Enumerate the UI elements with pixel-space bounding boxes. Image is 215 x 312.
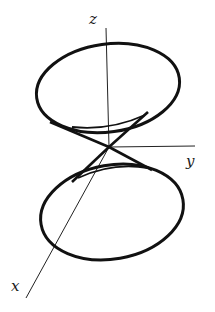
z-axis <box>106 28 109 147</box>
double-cone-diagram: z y x <box>0 0 215 312</box>
y-axis <box>109 146 195 147</box>
x-axis-label: x <box>11 277 20 295</box>
z-axis-label: z <box>88 10 97 28</box>
y-axis-label: y <box>185 152 195 170</box>
lower-nappe-rim <box>33 153 191 271</box>
upper-left-generator <box>50 122 109 147</box>
x-axis <box>26 147 109 298</box>
upper-right-generator <box>109 112 148 147</box>
